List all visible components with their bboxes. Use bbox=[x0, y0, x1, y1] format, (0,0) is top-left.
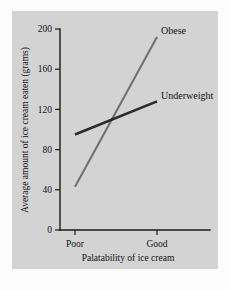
x-tick-marks bbox=[75, 230, 157, 235]
chart-panel: 0 40 80 120 160 200 Poor Good Palatabili… bbox=[12, 11, 218, 269]
y-tick-label-40: 40 bbox=[43, 185, 53, 195]
y-tick-label-80: 80 bbox=[43, 145, 53, 155]
y-tick-label-200: 200 bbox=[38, 24, 53, 34]
series-line-underweight bbox=[75, 101, 157, 134]
y-tick-label-160: 160 bbox=[38, 64, 53, 74]
y-tick-label-0: 0 bbox=[47, 225, 52, 235]
x-tick-label-poor: Poor bbox=[66, 239, 85, 249]
figure-container: 0 40 80 120 160 200 Poor Good Palatabili… bbox=[0, 0, 230, 290]
series-line-obese bbox=[75, 37, 157, 187]
y-tick-marks bbox=[55, 29, 60, 230]
x-axis-title: Palatability of ice cream bbox=[82, 253, 175, 263]
x-tick-label-good: Good bbox=[146, 239, 167, 249]
y-tick-label-120: 120 bbox=[38, 105, 53, 115]
y-axis-title: Average amount of ice cream eaten (grams… bbox=[20, 47, 31, 213]
series-label-obese: Obese bbox=[161, 25, 187, 36]
line-chart: 0 40 80 120 160 200 Poor Good Palatabili… bbox=[12, 11, 218, 269]
series-label-underweight: Underweight bbox=[161, 90, 213, 101]
